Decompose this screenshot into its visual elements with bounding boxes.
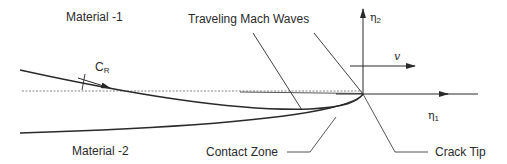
material-1-label: Material -1 [66,11,123,23]
eta1-sub: 1 [435,114,439,123]
eta1-axis-label: η1 [428,110,439,123]
interface-solid-line [240,92,362,94]
eta1-base: η [428,109,435,122]
contact-zone-label: Contact Zone [206,146,278,158]
lower-crack-face-curve [20,94,363,133]
contact-zone-leader [287,117,336,152]
crack-tip-leader [363,94,428,152]
rayleigh-speed-symbol: CR [95,61,109,75]
mach-waves-label: Traveling Mach Waves [188,13,309,25]
crack-tip-label: Crack Tip [435,146,486,158]
cr-base: C [95,60,104,74]
eta2-axis-label: η2 [370,12,381,25]
cr-sub: R [104,66,110,75]
mach-wave-line-2 [314,33,363,94]
velocity-label: v [394,51,400,62]
eta2-base: η [370,11,377,24]
velocity-symbol: v [394,50,400,63]
rayleigh-wave-tick [82,74,85,90]
mach-wave-line-1 [253,33,302,110]
eta2-sub: 2 [377,16,381,25]
upper-crack-face-curve [20,70,363,109]
material-2-label: Material -2 [72,145,129,157]
